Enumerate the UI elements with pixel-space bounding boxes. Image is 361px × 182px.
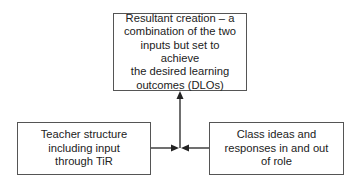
arrowhead-up-icon	[177, 91, 184, 99]
arrowhead-left-icon	[181, 145, 189, 152]
arrowhead-right-icon	[171, 145, 179, 152]
connector-arrows	[0, 0, 361, 182]
